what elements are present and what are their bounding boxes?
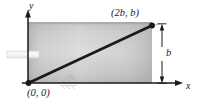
point-label-origin: (0, 0) — [27, 88, 50, 99]
point-label-upper-right: (2b, b) — [111, 8, 139, 19]
dimension-label-b: b — [166, 48, 171, 59]
x-axis-label: x — [186, 81, 190, 91]
figure-container: y x (2b, b) (0, 0) b — [0, 0, 197, 110]
y-axis-label: y — [29, 1, 33, 11]
left-white-bar — [7, 51, 39, 58]
endpoint-marker-origin — [26, 80, 32, 86]
